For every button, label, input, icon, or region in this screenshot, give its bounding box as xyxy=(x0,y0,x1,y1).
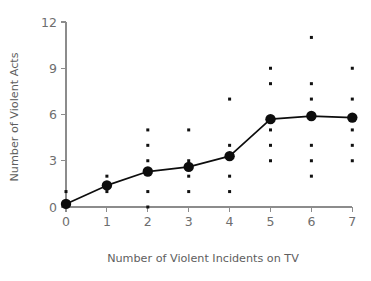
mean-marker xyxy=(306,111,316,121)
observation-dot xyxy=(228,98,231,101)
x-tick-label: 4 xyxy=(226,214,234,229)
observation-dot xyxy=(269,144,272,147)
mean-marker xyxy=(61,199,71,209)
mean-marker xyxy=(224,151,234,161)
x-tick-label: 7 xyxy=(348,214,356,229)
observation-dot xyxy=(146,206,149,209)
observation-dot xyxy=(269,67,272,70)
observation-dot xyxy=(228,144,231,147)
observation-dot xyxy=(65,190,68,193)
plot-canvas: 036912 01234567 Number of Violent Incide… xyxy=(0,0,371,281)
observation-dot xyxy=(228,190,231,193)
x-axis-title: Number of Violent Incidents on TV xyxy=(107,252,299,265)
observation-dot xyxy=(146,190,149,193)
observation-dot xyxy=(146,128,149,131)
observation-dot xyxy=(146,159,149,162)
observation-dot xyxy=(351,128,354,131)
y-tick-label: 9 xyxy=(49,61,57,76)
x-tick-label: 2 xyxy=(144,214,152,229)
observation-dot xyxy=(269,128,272,131)
observation-dot xyxy=(187,175,190,178)
mean-marker xyxy=(347,112,357,122)
observation-dot xyxy=(269,82,272,85)
x-tick-label: 0 xyxy=(62,214,70,229)
y-axis-title: Number of Violent Acts xyxy=(8,52,21,181)
mean-marker xyxy=(143,166,153,176)
x-tick-label: 6 xyxy=(307,214,315,229)
observation-dot xyxy=(187,128,190,131)
y-tick-label: 3 xyxy=(49,153,57,168)
y-tick-label: 0 xyxy=(49,200,57,215)
x-axis: 01234567 xyxy=(62,207,356,229)
observation-dot xyxy=(269,159,272,162)
y-axis: 036912 xyxy=(41,15,66,215)
y-tick-label: 6 xyxy=(49,107,57,122)
observation-dot xyxy=(105,175,108,178)
scatter-plot-figure: 036912 01234567 Number of Violent Incide… xyxy=(0,0,371,281)
observation-dot xyxy=(351,144,354,147)
mean-trend-line xyxy=(66,116,352,204)
observation-dot xyxy=(310,175,313,178)
mean-markers-layer xyxy=(61,111,358,209)
mean-marker xyxy=(184,162,194,172)
x-tick-label: 1 xyxy=(103,214,111,229)
observation-dot xyxy=(146,144,149,147)
observation-dot xyxy=(310,36,313,39)
observation-dot xyxy=(351,98,354,101)
observation-dot xyxy=(310,144,313,147)
observation-dot xyxy=(187,190,190,193)
observation-dot xyxy=(351,67,354,70)
x-tick-label: 3 xyxy=(185,214,193,229)
x-tick-label: 5 xyxy=(267,214,275,229)
observation-dot xyxy=(310,98,313,101)
observation-dot xyxy=(351,159,354,162)
observation-dot xyxy=(310,82,313,85)
mean-marker xyxy=(102,180,112,190)
observation-dot xyxy=(310,159,313,162)
observation-dot xyxy=(228,175,231,178)
y-tick-label: 12 xyxy=(41,15,57,30)
mean-marker xyxy=(265,114,275,124)
mean-trend-polyline xyxy=(66,116,352,204)
